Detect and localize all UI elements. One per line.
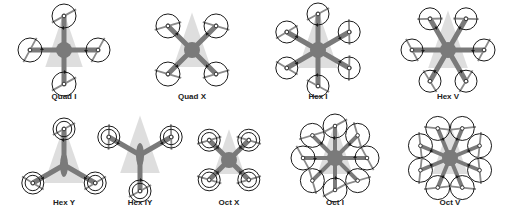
multirotor-frame-icon <box>0 0 513 219</box>
frame-label: Oct V <box>440 198 461 207</box>
